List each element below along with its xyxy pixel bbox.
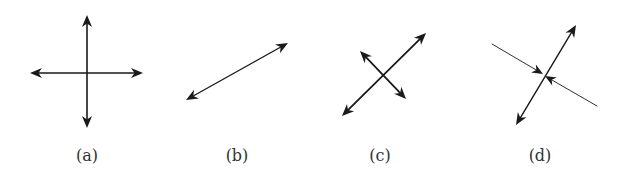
arrow-line xyxy=(347,38,421,111)
arrowhead-icon xyxy=(186,90,199,100)
panel-a xyxy=(30,15,143,128)
panel-d xyxy=(492,25,597,125)
panel-label-c: (c) xyxy=(350,146,410,165)
panel-label-b: (b) xyxy=(207,146,267,165)
arrow-line xyxy=(551,79,597,106)
panel-b xyxy=(186,43,288,100)
panel-c xyxy=(342,33,426,116)
panel-label-d: (d) xyxy=(510,146,570,165)
arrowhead-icon xyxy=(545,76,557,85)
panel-label-a: (a) xyxy=(57,146,117,165)
arrow-line xyxy=(492,44,537,71)
arrowhead-icon xyxy=(516,112,526,125)
arrowhead-icon xyxy=(566,25,576,38)
arrow-line xyxy=(520,31,573,119)
arrowhead-icon xyxy=(531,64,543,74)
arrow-line xyxy=(192,47,281,97)
arrowhead-icon xyxy=(275,43,288,53)
